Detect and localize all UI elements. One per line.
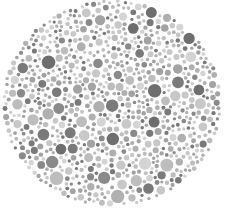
plate-dot bbox=[191, 127, 194, 130]
plate-dot bbox=[117, 47, 121, 51]
plate-dot bbox=[177, 134, 186, 143]
plate-dot bbox=[207, 116, 213, 122]
plate-dot bbox=[93, 192, 98, 197]
plate-dot bbox=[155, 180, 160, 185]
plate-dot bbox=[116, 0, 119, 3]
plate-dot bbox=[133, 164, 138, 169]
plate-dot bbox=[155, 194, 158, 197]
plate-dot bbox=[84, 95, 89, 100]
plate-dot bbox=[97, 88, 100, 91]
plate-dot bbox=[139, 157, 151, 169]
plate-dot bbox=[22, 132, 26, 136]
plate-dot bbox=[34, 156, 39, 161]
plate-dot bbox=[48, 34, 51, 37]
plate-dot bbox=[87, 183, 94, 190]
plate-dot bbox=[155, 31, 159, 35]
plate-dot bbox=[43, 122, 48, 127]
plate-dot bbox=[184, 76, 188, 80]
plate-dot bbox=[121, 149, 126, 154]
plate-dot bbox=[88, 51, 92, 55]
plate-dot bbox=[68, 119, 72, 123]
plate-dot bbox=[137, 71, 140, 74]
plate-dot bbox=[191, 138, 196, 143]
plate-dot bbox=[186, 164, 190, 168]
plate-dot bbox=[128, 91, 135, 98]
plate-dot bbox=[87, 59, 90, 62]
plate-dot bbox=[106, 99, 119, 112]
plate-dot bbox=[147, 19, 154, 26]
plate-dot bbox=[160, 180, 163, 183]
plate-dot bbox=[135, 201, 138, 204]
plate-dot bbox=[84, 189, 87, 192]
plate-dot bbox=[214, 127, 218, 131]
plate-dot bbox=[8, 70, 13, 75]
plate-dot bbox=[167, 126, 171, 130]
plate-dot bbox=[137, 45, 141, 49]
plate-dot bbox=[142, 4, 146, 8]
plate-dot bbox=[103, 196, 106, 199]
plate-dot bbox=[47, 102, 52, 107]
plate-dot bbox=[148, 51, 154, 57]
plate-dot bbox=[130, 40, 134, 44]
plate-dot bbox=[55, 44, 59, 48]
plate-dot bbox=[67, 195, 70, 198]
plate-dot bbox=[176, 123, 180, 127]
plate-dot bbox=[128, 148, 131, 151]
plate-dot bbox=[156, 62, 159, 65]
plate-dot bbox=[190, 160, 195, 165]
plate-dot bbox=[216, 85, 220, 89]
plate-dot bbox=[12, 99, 22, 109]
plate-dot bbox=[183, 174, 186, 177]
plate-dot bbox=[61, 169, 64, 172]
plate-dot bbox=[117, 4, 120, 7]
plate-dot bbox=[204, 109, 210, 115]
plate-dot bbox=[61, 191, 66, 196]
plate-dot bbox=[18, 83, 21, 86]
plate-dot bbox=[117, 145, 121, 149]
plate-dot bbox=[78, 182, 81, 185]
plate-dot bbox=[167, 89, 170, 92]
plate-dot bbox=[80, 110, 84, 114]
plate-dot bbox=[103, 98, 106, 101]
plate-dot bbox=[129, 186, 133, 190]
plate-dot bbox=[185, 51, 196, 62]
plate-dot bbox=[47, 72, 50, 75]
plate-dot bbox=[154, 49, 158, 53]
plate-dot bbox=[99, 28, 102, 31]
plate-dot bbox=[131, 161, 134, 164]
plate-dot bbox=[11, 84, 15, 88]
plate-dot bbox=[42, 49, 47, 54]
plate-dot bbox=[71, 155, 77, 161]
plate-dot bbox=[100, 90, 103, 93]
plate-dot bbox=[64, 30, 69, 35]
plate-dot bbox=[158, 52, 162, 56]
plate-dot bbox=[30, 77, 36, 83]
plate-dot bbox=[101, 149, 105, 153]
plate-dot bbox=[218, 112, 221, 115]
plate-dot bbox=[24, 124, 30, 130]
plate-dot bbox=[80, 26, 87, 33]
plate-dot bbox=[105, 152, 108, 155]
plate-dot bbox=[164, 131, 168, 135]
plate-dot bbox=[63, 97, 67, 101]
plate-dot bbox=[210, 90, 213, 93]
color-vision-test-plate bbox=[0, 0, 228, 210]
plate-dot bbox=[36, 65, 39, 68]
plate-dot bbox=[193, 121, 197, 125]
plate-dot bbox=[183, 33, 194, 44]
plate-dot bbox=[152, 157, 155, 160]
plate-dot bbox=[147, 197, 151, 201]
plate-dot bbox=[150, 46, 153, 49]
plate-dot bbox=[70, 182, 73, 185]
plate-dot bbox=[173, 141, 178, 146]
plate-dot bbox=[199, 122, 208, 131]
plate-dot bbox=[165, 181, 169, 185]
plate-dot bbox=[44, 181, 47, 184]
plate-dot bbox=[155, 100, 159, 104]
plate-dot bbox=[131, 110, 135, 114]
plate-dot bbox=[101, 95, 104, 98]
plate-dot bbox=[124, 130, 128, 134]
plate-dot bbox=[34, 99, 37, 102]
plate-dot bbox=[107, 200, 113, 206]
plate-dot bbox=[164, 55, 167, 58]
